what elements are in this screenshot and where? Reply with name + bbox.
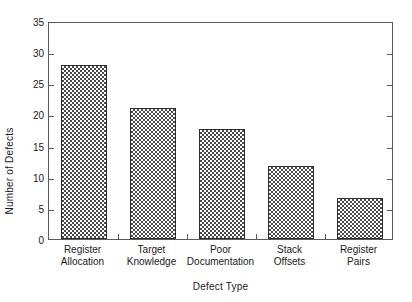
y-tick-label: 10	[33, 172, 44, 183]
x-axis-tick-labels: RegisterAllocationTargetKnowledgePoorDoc…	[48, 244, 393, 278]
x-tick-label: PoorDocumentation	[186, 244, 255, 268]
x-tick-label-line: Offsets	[255, 256, 324, 268]
bar[interactable]	[199, 129, 245, 239]
bar[interactable]	[337, 198, 383, 239]
y-tick-label: 30	[33, 48, 44, 59]
x-axis-title: Defect Type	[48, 281, 393, 292]
y-tick-label: 5	[38, 203, 44, 214]
x-tick-label-line: Register	[48, 244, 117, 256]
x-tick-label-line: Pairs	[324, 256, 393, 268]
bar[interactable]	[130, 108, 176, 239]
x-tick-label-line: Target	[117, 244, 186, 256]
y-tick-label: 25	[33, 79, 44, 90]
bar[interactable]	[61, 65, 107, 239]
bar-slot	[187, 23, 256, 239]
y-axis-title: Number of Defects	[0, 0, 18, 302]
x-tick-label-line: Register	[324, 244, 393, 256]
bars-layer	[49, 23, 392, 239]
x-tick-label-line: Stack	[255, 244, 324, 256]
x-tick-label: RegisterPairs	[324, 244, 393, 268]
y-tick-label: 35	[33, 17, 44, 28]
bar-slot	[325, 23, 394, 239]
x-tick-label-line: Documentation	[186, 256, 255, 268]
bar-slot	[49, 23, 118, 239]
x-tick-label-line: Knowledge	[117, 256, 186, 268]
bar-slot	[118, 23, 187, 239]
y-tick-label: 20	[33, 110, 44, 121]
y-tick-label: 0	[38, 235, 44, 246]
y-tick-label: 15	[33, 141, 44, 152]
x-tick-label-line: Allocation	[48, 256, 117, 268]
bar-slot	[256, 23, 325, 239]
x-tick-label: TargetKnowledge	[117, 244, 186, 268]
y-axis-tick-labels: 05101520253035	[22, 0, 44, 302]
plot-area	[48, 22, 393, 240]
x-tick-label: StackOffsets	[255, 244, 324, 268]
bar[interactable]	[268, 166, 314, 239]
x-tick-label: RegisterAllocation	[48, 244, 117, 268]
y-axis-title-text: Number of Defects	[4, 128, 15, 215]
bar-chart: Number of Defects 05101520253035 Registe…	[0, 0, 412, 302]
x-tick-label-line: Poor	[186, 244, 255, 256]
